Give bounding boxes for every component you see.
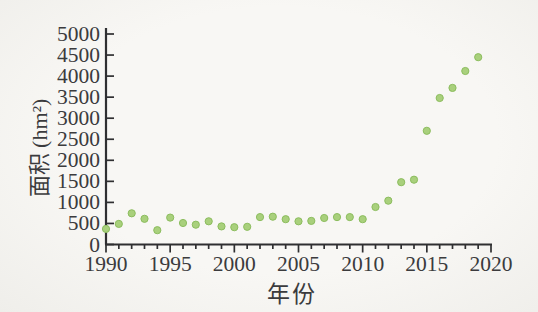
data-point — [102, 225, 109, 232]
x-tick-label: 2005 — [277, 252, 320, 276]
data-point — [449, 84, 456, 91]
data-point — [385, 197, 392, 204]
data-point — [346, 214, 353, 221]
x-tick-label: 2020 — [470, 252, 513, 276]
y-tick-label: 500 — [68, 211, 100, 235]
scatter-figure: 0500100015002000250030003500400045005000… — [0, 0, 538, 312]
data-point — [333, 214, 340, 221]
y-tick-label: 3500 — [57, 85, 100, 109]
data-point — [410, 176, 417, 183]
x-tick-label: 1995 — [149, 252, 192, 276]
y-tick-label: 1000 — [57, 190, 100, 214]
y-axis-title: 面积 (hm²) — [21, 99, 53, 198]
data-point — [462, 67, 469, 74]
x-tick-label: 2000 — [213, 252, 256, 276]
data-point — [321, 214, 328, 221]
data-point — [359, 216, 366, 223]
data-point — [423, 127, 430, 134]
y-tick-label: 2000 — [57, 148, 100, 172]
x-tick-label: 1990 — [85, 252, 128, 276]
data-point — [295, 218, 302, 225]
x-axis-title: 年份 — [267, 275, 317, 309]
data-point — [436, 94, 443, 101]
data-point — [256, 214, 263, 221]
data-point — [128, 210, 135, 217]
data-point — [141, 215, 148, 222]
data-point — [308, 217, 315, 224]
y-tick-label: 4500 — [57, 43, 100, 67]
y-tick-label: 5000 — [57, 22, 100, 46]
y-tick-label: 3000 — [57, 106, 100, 130]
data-point — [269, 213, 276, 220]
data-point — [244, 223, 251, 230]
y-tick-label: 2500 — [57, 127, 100, 151]
data-point — [154, 227, 161, 234]
data-point — [115, 220, 122, 227]
data-point — [475, 54, 482, 61]
data-point — [398, 179, 405, 186]
x-tick-label: 2010 — [341, 252, 384, 276]
data-point — [218, 223, 225, 230]
data-point — [167, 214, 174, 221]
data-point — [372, 203, 379, 210]
data-point — [205, 218, 212, 225]
data-point — [192, 221, 199, 228]
y-tick-label: 1500 — [57, 169, 100, 193]
y-tick-label: 4000 — [57, 64, 100, 88]
scatter-chart: 0500100015002000250030003500400045005000… — [0, 0, 538, 312]
data-point — [282, 216, 289, 223]
data-point — [179, 219, 186, 226]
x-tick-label: 2015 — [405, 252, 448, 276]
data-point — [231, 224, 238, 231]
